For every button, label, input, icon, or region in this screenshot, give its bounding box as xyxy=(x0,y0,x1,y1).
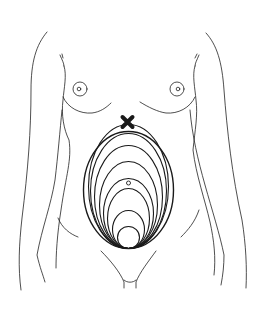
right-inner-arm xyxy=(190,110,224,285)
right-hip-crease xyxy=(181,210,199,237)
uterus-stage-9 xyxy=(84,132,174,249)
uterus-stage-5 xyxy=(100,162,158,249)
right-armpit-tick xyxy=(195,54,197,58)
left-inner-arm xyxy=(37,110,62,282)
cross-mark-icon xyxy=(123,117,133,127)
pubic-curve xyxy=(124,280,136,282)
pregnancy-fundal-height-illustration xyxy=(0,0,259,312)
uterus-stage-1 xyxy=(118,227,140,249)
left-torso-side xyxy=(56,66,70,268)
right-arm-outer-outline xyxy=(206,33,246,288)
uterus-stage-7 xyxy=(91,134,167,249)
uterus-stage-8 xyxy=(89,125,169,249)
uterus-stage-3 xyxy=(108,189,150,249)
right-areola xyxy=(170,82,184,96)
right-nipple xyxy=(176,87,180,91)
left-hip-crease xyxy=(58,218,78,237)
right-groin-line xyxy=(136,251,156,288)
left-breast-outline xyxy=(63,97,111,113)
uterus-stage-2 xyxy=(113,211,145,249)
right-torso-side xyxy=(193,66,215,275)
right-breast-outline xyxy=(140,97,195,113)
left-areola xyxy=(73,82,87,96)
left-nipple xyxy=(77,87,81,91)
left-armpit-line xyxy=(60,55,64,66)
umbilicus-marker xyxy=(127,181,131,185)
left-armpit-tick xyxy=(62,54,63,58)
left-arm-outer-outline xyxy=(19,32,47,290)
uterus-stage-group xyxy=(84,125,174,249)
left-groin-line xyxy=(101,251,124,288)
